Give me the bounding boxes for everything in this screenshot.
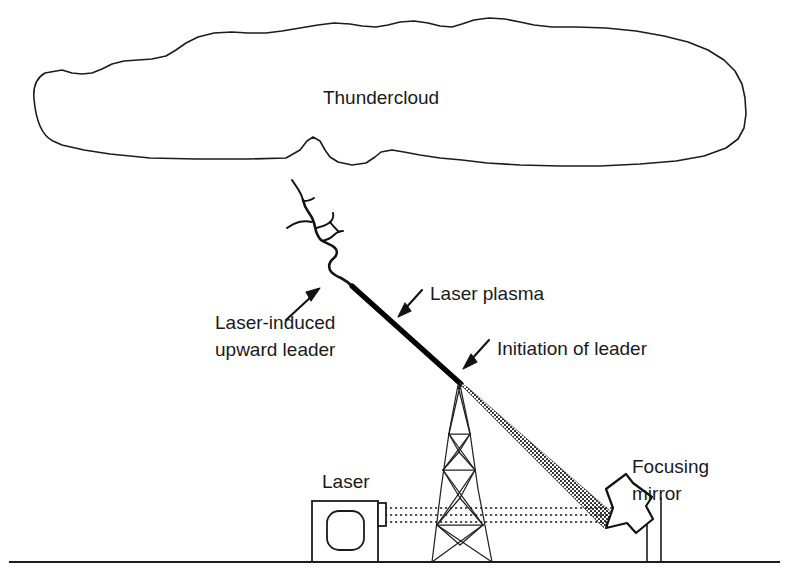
diagram-canvas: Thundercloud bbox=[0, 0, 789, 586]
initiation-of-leader-annotation: Initiation of leader bbox=[463, 338, 648, 369]
initiation-of-leader-label: Initiation of leader bbox=[497, 338, 648, 359]
focused-laser-cone bbox=[459, 383, 624, 528]
laser-plasma-label: Laser plasma bbox=[430, 283, 544, 304]
laser-output-aperture bbox=[378, 503, 386, 526]
focusing-mirror-label-line1: Focusing bbox=[632, 456, 709, 477]
transmission-tower-group bbox=[432, 385, 492, 562]
upward-leader-branch-b bbox=[292, 180, 303, 200]
focusing-mirror-group: Focusing mirror bbox=[606, 456, 709, 562]
laser-induced-upward-leader-annotation: Laser-induced upward leader bbox=[215, 288, 336, 360]
upward-leader-label-line2: upward leader bbox=[215, 339, 336, 360]
laser-cavity bbox=[327, 511, 364, 550]
focusing-mirror-label-line2: mirror bbox=[632, 483, 682, 504]
thundercloud-group: Thundercloud bbox=[34, 18, 746, 166]
tower-cross-1 bbox=[449, 386, 470, 434]
collimated-beam-group bbox=[380, 508, 614, 522]
laser-source-group: Laser bbox=[312, 471, 386, 562]
laser-label: Laser bbox=[322, 471, 370, 492]
mirror-support-post bbox=[647, 498, 661, 562]
lightning-diagram-figure: Thundercloud bbox=[0, 0, 789, 586]
thundercloud-label: Thundercloud bbox=[323, 87, 439, 108]
upward-leader-branch-f bbox=[303, 198, 314, 201]
laser-induced-upward-leader-group bbox=[287, 180, 353, 287]
upward-leader-branch-a bbox=[287, 221, 312, 228]
focused-laser-cone-group bbox=[459, 383, 624, 528]
laser-plasma-annotation: Laser plasma bbox=[398, 283, 544, 317]
upward-leader-main-channel bbox=[303, 200, 353, 287]
upward-leader-branch-e bbox=[330, 222, 339, 232]
upward-leader-branch-c bbox=[316, 213, 333, 228]
upward-leader-label-line1: Laser-induced bbox=[215, 312, 335, 333]
